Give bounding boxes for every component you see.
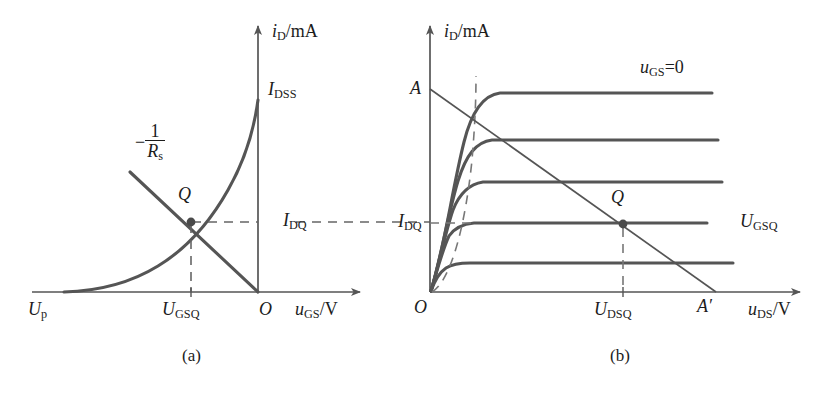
panel-b-udsq-label: UDSQ: [594, 300, 631, 321]
panel-a-ugsq-label: UGSQ: [162, 300, 199, 321]
panel-b-curve-5: [431, 263, 733, 291]
panel-b-caption: (b): [610, 347, 630, 364]
panel-b-ugs-zero-label: uGS=0: [640, 58, 684, 79]
panel-b-load-line-bottom-label: A′: [697, 297, 712, 315]
panel-a-pinchoff-voltage-label: Up: [28, 300, 47, 321]
panel-b-curve-3: [431, 182, 722, 291]
panel-b-ugsq-curve-label: UGSQ: [740, 212, 777, 233]
panel-a-y-axis-label: iD/mA: [272, 22, 318, 43]
panel-b-curve-2: [431, 140, 718, 291]
panel-a-q-point-marker: [187, 218, 196, 227]
panel-a: [32, 26, 430, 297]
panel-a-idss-label: IDSS: [268, 80, 296, 101]
figure-root: iD/mA IDSS IDQ Q −1Rs Up UGSQ O uGS/V (a…: [0, 0, 828, 393]
panel-a-q-point-label: Q: [178, 185, 191, 203]
panel-b-q-point-label: Q: [611, 188, 624, 206]
panel-b-origin-label: O: [414, 298, 427, 316]
panel-a-caption: (a): [182, 347, 201, 364]
panel-a-bias-line: [130, 172, 258, 292]
panel-b-load-line-top-label: A: [410, 79, 421, 97]
panel-b-y-axis-label: iD/mA: [444, 22, 490, 43]
panel-b-idq-label: IDQ: [398, 212, 422, 233]
panel-b-curve-ugs-zero: [431, 93, 712, 291]
panel-b: [430, 26, 800, 297]
panel-a-origin-label: O: [259, 300, 272, 318]
panel-b-x-axis-label: uDS/V: [748, 300, 791, 321]
panel-b-q-point-marker: [619, 220, 628, 229]
panel-a-bias-slope-label: −1Rs: [135, 122, 165, 163]
figure-canvas: [0, 0, 828, 393]
panel-a-idq-label: IDQ: [283, 211, 307, 232]
panel-a-x-axis-label: uGS/V: [295, 300, 338, 321]
